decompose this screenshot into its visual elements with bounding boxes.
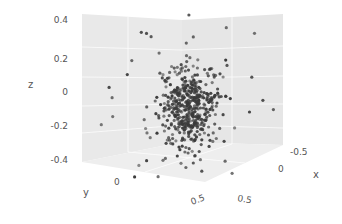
scatter-3d-chart[interactable]: 0.4 0.2 0 -0.2 -0.4 z 0 0.5 y -0.5 0 0.5… — [0, 0, 342, 224]
y-axis-label: y — [83, 187, 89, 198]
x-tick: -0.5 — [290, 147, 308, 157]
x-tick: 0 — [278, 164, 284, 174]
z-tick: 0.2 — [54, 54, 68, 64]
z-axis-label: z — [28, 79, 33, 90]
y-tick: 0 — [114, 177, 120, 187]
x-axis-label: x — [313, 169, 319, 180]
z-tick: 0.4 — [54, 15, 69, 25]
x-tick: 0.5 — [237, 193, 253, 205]
z-tick: -0.4 — [50, 155, 68, 165]
z-tick: -0.2 — [50, 121, 68, 131]
y-tick: 0.5 — [189, 193, 206, 207]
z-tick: 0 — [62, 87, 68, 97]
